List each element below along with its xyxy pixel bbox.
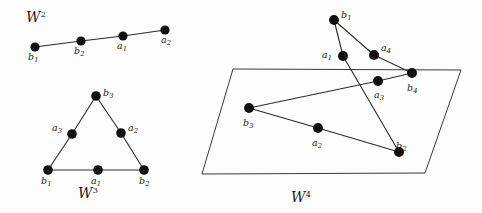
vertex-w4-b1 bbox=[329, 15, 339, 25]
plane-outlines bbox=[202, 69, 461, 174]
edge-w3-b3-a3 bbox=[72, 96, 96, 134]
vertex-label-w4-b4: b4 bbox=[407, 83, 417, 93]
vertex-w4-a3 bbox=[373, 76, 383, 86]
vertex-w4-a1 bbox=[338, 51, 348, 61]
vertex-label-w3-b3: b3 bbox=[103, 88, 113, 98]
diagram-svg bbox=[0, 0, 482, 213]
vertex-w3-a1 bbox=[93, 165, 103, 175]
vertex-w4-a4 bbox=[369, 50, 379, 60]
edge-w4-a4-b4 bbox=[374, 55, 412, 73]
vertex-label-w4-a2: a2 bbox=[312, 138, 322, 148]
edge-w3-a2-b2 bbox=[121, 133, 144, 170]
vertex-label-w4-a3: a3 bbox=[374, 90, 384, 100]
edge-w4-b1-a1 bbox=[334, 20, 343, 56]
space-label-w4: W4 bbox=[291, 190, 310, 205]
vertex-label-w2-a2: a2 bbox=[161, 35, 171, 45]
plane-outline-w4 bbox=[202, 69, 461, 174]
vertex-w4-b4 bbox=[407, 68, 417, 78]
vertex-w3-a2 bbox=[116, 128, 126, 138]
edge-w3-b3-a2 bbox=[96, 96, 121, 133]
vertex-label-w4-a4: a4 bbox=[381, 43, 391, 53]
vertex-label-w4-b3: b3 bbox=[243, 118, 253, 128]
vertex-label-w2-b1: b1 bbox=[28, 52, 38, 62]
figure-canvas: b1b2a1a2W2b3a3a2b1a1b2W3b1a1a4b4a3b3a2b2… bbox=[0, 0, 482, 213]
vertex-label-w3-b2: b2 bbox=[139, 176, 149, 186]
vertex-w4-b3 bbox=[244, 103, 254, 113]
vertex-label-w2-b2: b2 bbox=[74, 46, 84, 56]
vertex-w4-a2 bbox=[313, 123, 323, 133]
vertex-w3-b2 bbox=[139, 165, 149, 175]
vertex-label-w3-a3: a3 bbox=[52, 123, 62, 133]
space-label-w2: W2 bbox=[26, 10, 45, 25]
edge-w4-b1-a4 bbox=[334, 20, 374, 55]
vertex-label-w3-b1: b1 bbox=[41, 176, 51, 186]
edge-w4-a3-b3 bbox=[249, 81, 378, 108]
vertex-label-w4-b1: b1 bbox=[341, 10, 351, 20]
vertex-w3-b1 bbox=[43, 165, 53, 175]
vertex-label-w4-a1: a1 bbox=[322, 50, 332, 60]
edge-w4-b4-a3 bbox=[378, 73, 412, 81]
vertex-label-w4-b2: b2 bbox=[396, 141, 406, 151]
space-label-w3: W3 bbox=[78, 186, 97, 201]
vertex-label-w2-a1: a1 bbox=[117, 41, 127, 51]
edge-w2-a1-a2 bbox=[123, 30, 165, 36]
vertex-w3-a3 bbox=[67, 129, 77, 139]
vertex-label-w3-a2: a2 bbox=[128, 123, 138, 133]
nodes-layer bbox=[30, 15, 417, 175]
vertex-w3-b3 bbox=[91, 91, 101, 101]
vertex-label-w3-a1: a1 bbox=[91, 176, 101, 186]
edge-w3-a3-b1 bbox=[48, 134, 72, 170]
edge-w4-b3-a2 bbox=[249, 108, 318, 128]
